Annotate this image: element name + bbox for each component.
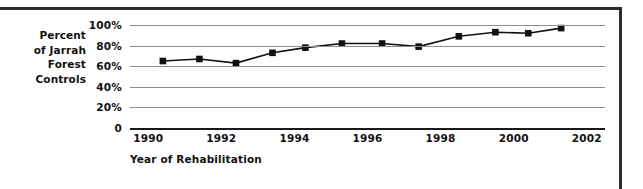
data-point-marker	[269, 50, 276, 57]
top-rule-divider	[0, 7, 620, 10]
y-tick-label-60: 60%	[96, 60, 122, 72]
plot-area: 020%40%60%80%100%19901992199419961998200…	[130, 25, 605, 128]
data-point-marker	[196, 56, 203, 63]
y-axis-title-line-4: Controls	[8, 72, 86, 87]
line-series	[130, 25, 605, 128]
x-tick-label-1990: 1990	[133, 132, 163, 144]
x-tick-label-1998: 1998	[426, 132, 456, 144]
chart-figure: Percent of Jarrah Forest Controls 020%40…	[0, 0, 643, 189]
x-tick-label-1992: 1992	[206, 132, 236, 144]
y-tick-label-40: 40%	[96, 81, 122, 93]
y-tick-label-100: 100%	[89, 19, 122, 31]
x-tick-label-2000: 2000	[499, 132, 529, 144]
data-point-marker	[456, 33, 463, 40]
y-axis-title-line-1: Percent	[8, 28, 86, 43]
y-axis-title-line-2: of Jarrah	[8, 43, 86, 58]
data-point-marker	[160, 58, 167, 65]
data-point-marker	[415, 43, 422, 50]
y-axis-title-line-3: Forest	[8, 57, 86, 72]
x-axis-title: Year of Rehabilitation	[130, 153, 262, 165]
gridline-y-40: 40%	[130, 87, 605, 88]
gridline-y-60: 60%	[130, 66, 605, 67]
data-point-marker	[525, 30, 532, 37]
y-axis-title: Percent of Jarrah Forest Controls	[8, 28, 86, 86]
right-border-divider	[619, 7, 622, 189]
data-point-marker	[492, 29, 499, 36]
gridline-y-100: 100%	[130, 25, 605, 26]
gridline-y-20: 20%	[130, 107, 605, 108]
y-tick-label-80: 80%	[96, 40, 122, 52]
x-tick-label-2002: 2002	[572, 132, 602, 144]
gridline-y-0: 0	[130, 128, 605, 130]
x-tick-label-1994: 1994	[279, 132, 309, 144]
y-tick-label-20: 20%	[96, 101, 122, 113]
x-tick-label-1996: 1996	[352, 132, 382, 144]
gridline-y-80: 80%	[130, 46, 605, 47]
y-tick-label-0: 0	[114, 122, 122, 134]
